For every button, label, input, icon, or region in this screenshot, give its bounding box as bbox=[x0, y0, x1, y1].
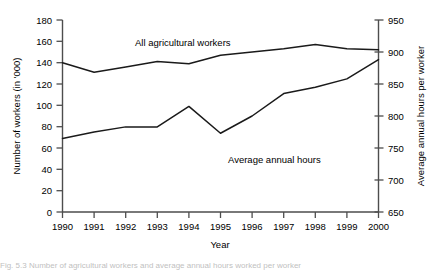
right-tick-label: 750 bbox=[388, 143, 404, 154]
bottom-axis-ticks bbox=[63, 212, 379, 218]
left-axis-title: Number of workers (in '000) bbox=[11, 58, 22, 175]
year-tick-label: 1993 bbox=[147, 221, 168, 232]
left-tick-label: 40 bbox=[41, 164, 52, 175]
chart-figure: 180 160 140 120 100 80 60 40 20 0 bbox=[0, 0, 438, 270]
right-tick-label: 650 bbox=[388, 207, 404, 218]
series-line-average-annual-hours bbox=[63, 60, 379, 139]
year-tick-label: 1992 bbox=[115, 221, 136, 232]
left-tick-label: 160 bbox=[36, 36, 52, 47]
year-tick-label: 1996 bbox=[242, 221, 263, 232]
year-tick-label: 1990 bbox=[52, 221, 73, 232]
right-tick-label: 800 bbox=[388, 111, 404, 122]
year-tick-label: 1999 bbox=[336, 221, 357, 232]
year-tick-label: 1998 bbox=[305, 221, 326, 232]
figure-caption-strip: Fig. 5.3 Number of agricultural workers … bbox=[0, 261, 438, 270]
left-tick-label: 20 bbox=[41, 185, 52, 196]
year-tick-label: 2000 bbox=[368, 221, 389, 232]
right-tick-label: 950 bbox=[388, 15, 404, 26]
chart-canvas: 180 160 140 120 100 80 60 40 20 0 bbox=[0, 0, 438, 270]
year-tick-label: 1994 bbox=[178, 221, 199, 232]
left-axis-ticks bbox=[57, 20, 63, 212]
left-tick-label: 100 bbox=[36, 100, 52, 111]
series-lines bbox=[63, 45, 379, 139]
left-tick-label: 120 bbox=[36, 79, 52, 90]
left-tick-label: 0 bbox=[47, 207, 52, 218]
right-tick-label: 900 bbox=[388, 47, 404, 58]
right-axis-title: Average annual hours per worker bbox=[415, 46, 426, 186]
series-label-hours: Average annual hours bbox=[228, 154, 321, 165]
series-line-all-agricultural-workers bbox=[63, 45, 379, 73]
axis-lines bbox=[63, 20, 379, 212]
left-axis-tick-labels: 180 160 140 120 100 80 60 40 20 0 bbox=[36, 15, 52, 218]
left-tick-label: 80 bbox=[41, 121, 52, 132]
year-tick-label: 1995 bbox=[210, 221, 231, 232]
year-tick-label: 1997 bbox=[273, 221, 294, 232]
series-label-workers: All agricultural workers bbox=[135, 37, 231, 48]
right-tick-label: 700 bbox=[388, 175, 404, 186]
left-tick-label: 60 bbox=[41, 143, 52, 154]
right-tick-label: 850 bbox=[388, 79, 404, 90]
figure-caption: Fig. 5.3 Number of agricultural workers … bbox=[0, 261, 438, 270]
bottom-axis-tick-labels: 1990 1991 1992 1993 1994 1995 1996 1997 … bbox=[52, 221, 389, 232]
right-axis-tick-labels: 950 900 850 800 750 700 650 bbox=[388, 15, 404, 218]
left-tick-label: 180 bbox=[36, 15, 52, 26]
x-axis-title: Year bbox=[210, 239, 229, 250]
year-tick-label: 1991 bbox=[84, 221, 105, 232]
line-chart-svg: 180 160 140 120 100 80 60 40 20 0 bbox=[0, 0, 438, 270]
left-tick-label: 140 bbox=[36, 57, 52, 68]
